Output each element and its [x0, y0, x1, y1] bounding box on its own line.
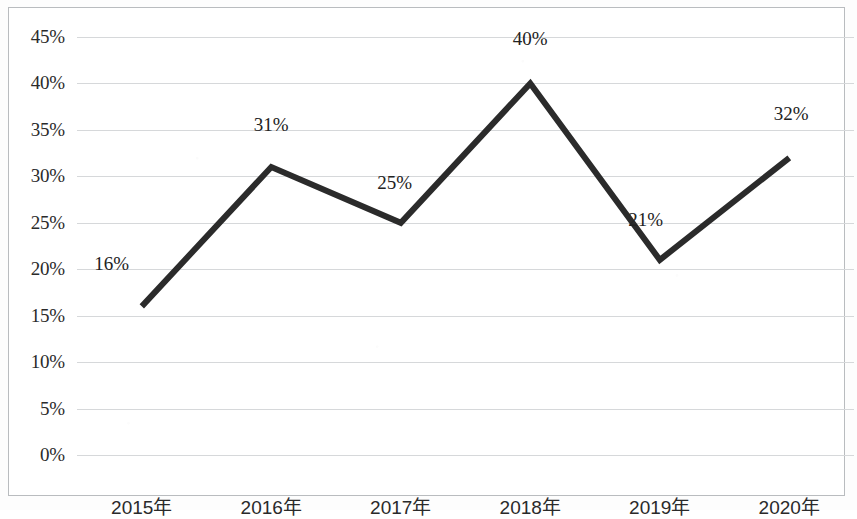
data-point-label: 16% [94, 253, 129, 275]
y-tick-label: 0% [9, 444, 65, 466]
y-tick-label: 30% [9, 165, 65, 187]
series-line-chart [77, 37, 854, 455]
y-tick-label: 20% [9, 258, 65, 280]
y-tick-label: 40% [9, 72, 65, 94]
y-tick-label: 5% [9, 398, 65, 420]
x-tick-label: 2018年 [500, 492, 561, 519]
plot-area: 0%5%10%15%20%25%30%35%40%45% 16%31%25%40… [77, 37, 854, 455]
y-tick-label: 35% [9, 119, 65, 141]
chart-frame: 0%5%10%15%20%25%30%35%40%45% 16%31%25%40… [8, 7, 845, 496]
data-point-label: 21% [628, 209, 663, 231]
x-tick-label: 2017年 [370, 492, 431, 519]
gridline-0 [77, 455, 854, 456]
data-point-label: 31% [254, 114, 289, 136]
x-tick-label: 2020年 [759, 492, 820, 519]
x-tick-label: 2016年 [241, 492, 302, 519]
y-tick-label: 45% [9, 26, 65, 48]
data-point-label: 25% [377, 172, 412, 194]
y-tick-label: 10% [9, 351, 65, 373]
x-tick-label: 2015年 [111, 492, 172, 519]
data-point-label: 40% [513, 28, 548, 50]
x-tick-label: 2019年 [629, 492, 690, 519]
y-tick-label: 15% [9, 305, 65, 327]
data-point-label: 32% [774, 103, 809, 125]
y-tick-label: 25% [9, 212, 65, 234]
series-polyline [142, 83, 790, 306]
